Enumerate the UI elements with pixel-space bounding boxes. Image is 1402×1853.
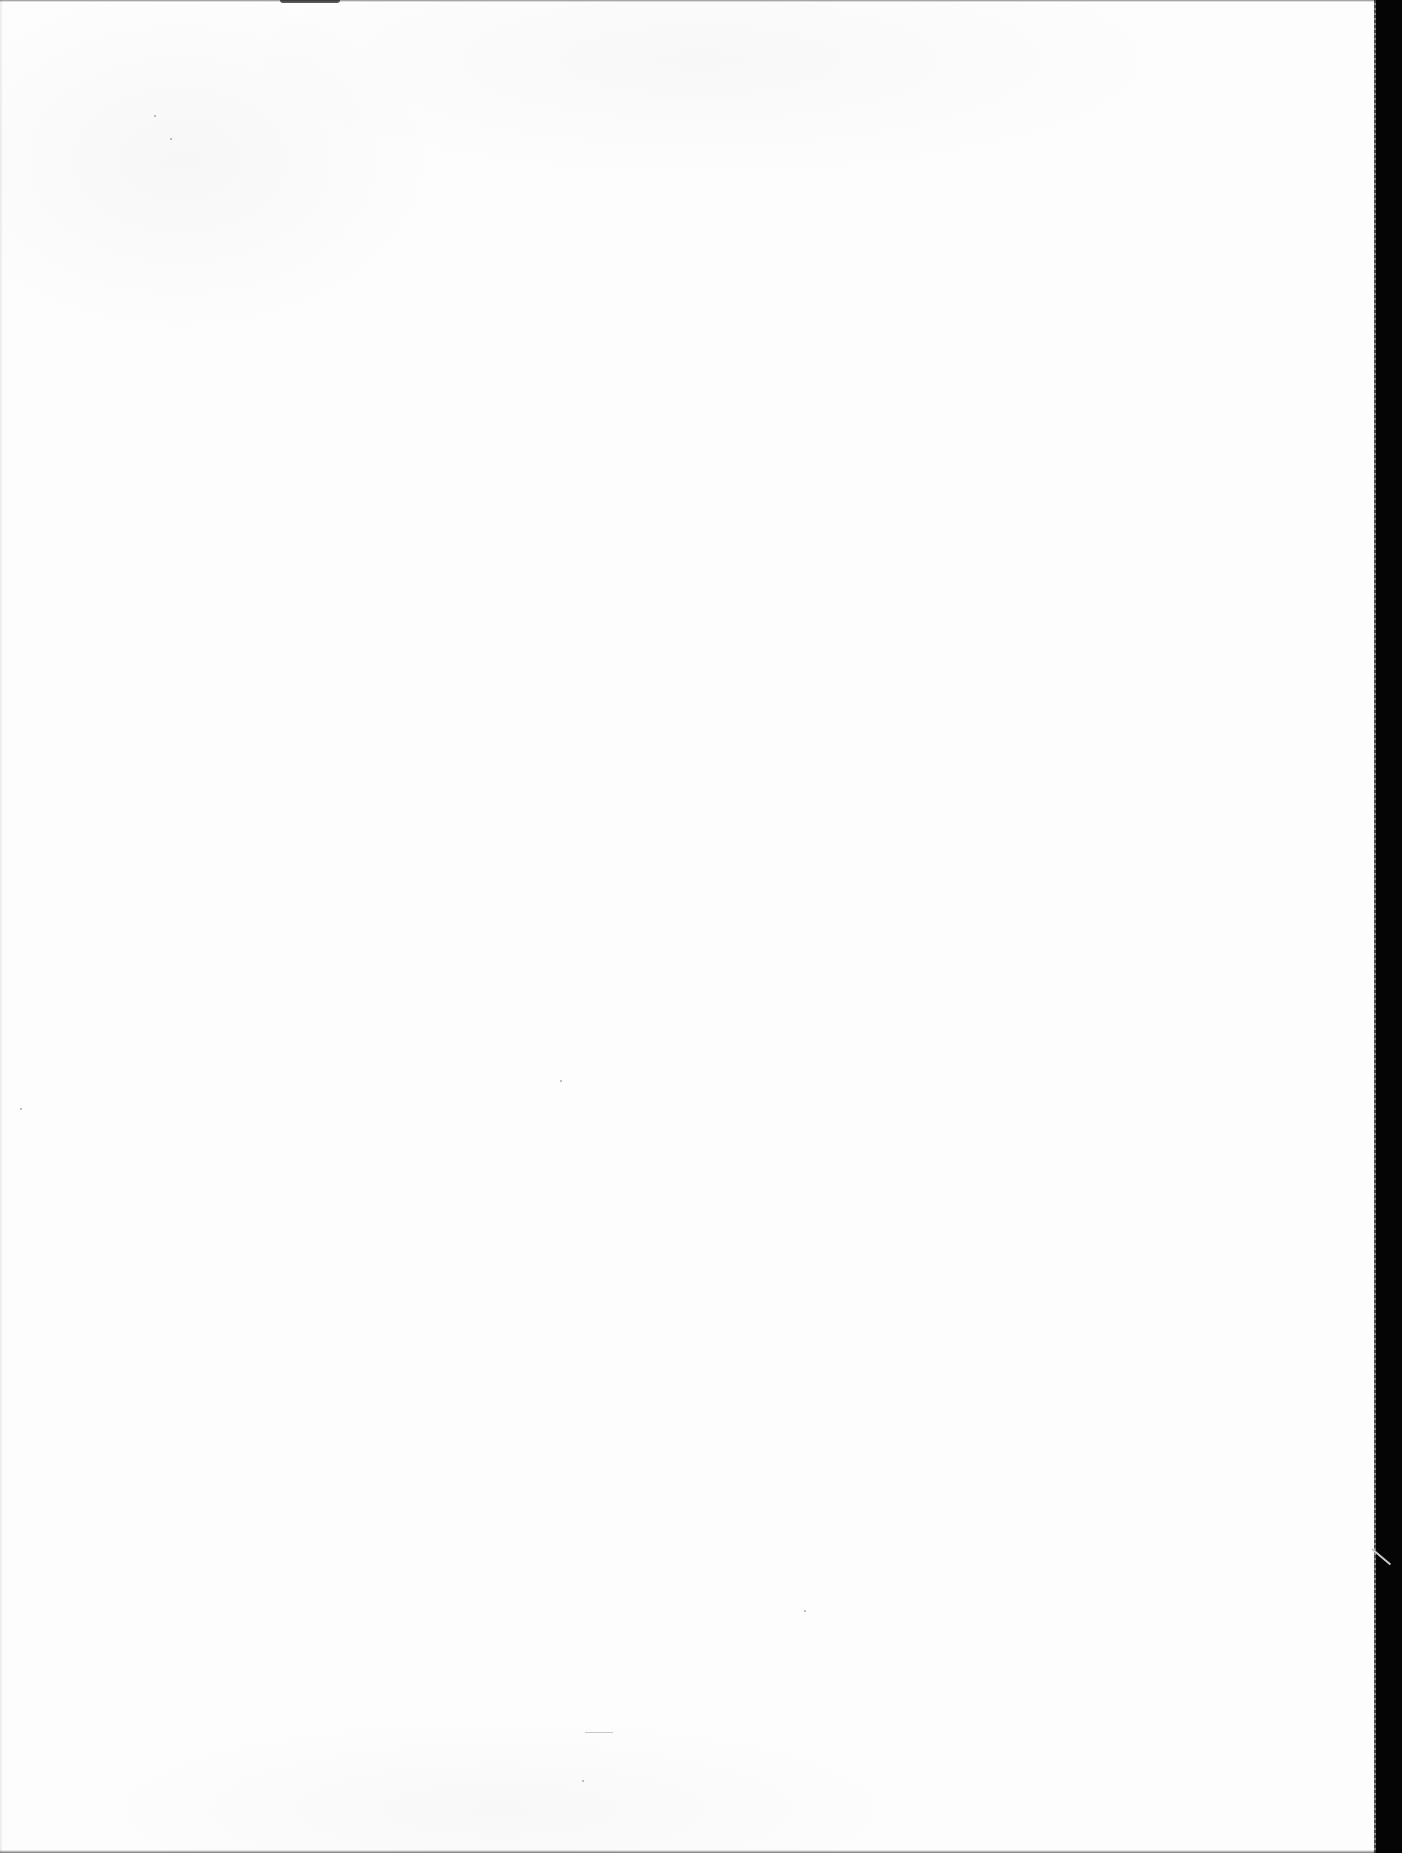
dust-speck — [154, 115, 156, 117]
bleed-through-texture — [0, 0, 1376, 1853]
page-top-edge-shadow — [280, 0, 340, 3]
dust-speck — [170, 138, 172, 140]
dust-speck — [20, 1108, 22, 1110]
page-left-edge — [0, 0, 3, 1853]
scanner-bed-border — [1376, 0, 1402, 1853]
dust-speck — [560, 1080, 562, 1082]
dust-speck — [804, 1610, 806, 1612]
scan-artifact-line — [585, 1732, 613, 1733]
page-top-edge — [0, 0, 1376, 2]
dust-speck — [582, 1780, 584, 1782]
blank-page — [0, 0, 1376, 1853]
